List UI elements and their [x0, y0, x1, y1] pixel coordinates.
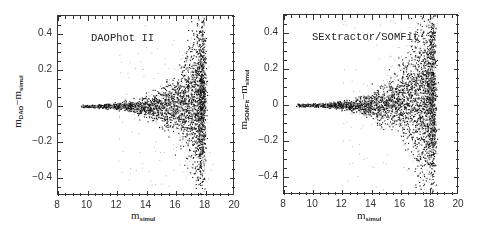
x-tick-label: 8 — [273, 198, 293, 209]
x-tick-label: 14 — [361, 198, 381, 209]
x-axis-label: msimul — [357, 209, 381, 222]
xlabel-base: m — [357, 209, 366, 221]
y-tick-label: 0.2 — [248, 62, 278, 73]
y-tick-label: 0 — [22, 99, 52, 110]
x-tick-label: 18 — [419, 198, 439, 209]
y-tick-label: −0.4 — [22, 171, 52, 182]
y-tick-label: −0.2 — [22, 135, 52, 146]
x-tick-label: 18 — [195, 199, 215, 210]
ylabel-base2: m — [237, 85, 249, 94]
x-tick-label: 16 — [390, 198, 410, 209]
y-tick-label: 0.2 — [22, 63, 52, 74]
x-tick-label: 12 — [331, 198, 351, 209]
x-tick-label: 8 — [47, 199, 67, 210]
x-tick-label: 14 — [136, 199, 156, 210]
y-tick-label: 0.4 — [248, 26, 278, 37]
xlabel-sub: simul — [366, 216, 382, 222]
x-tick-label: 20 — [448, 198, 468, 209]
y-tick-label: −0.4 — [248, 170, 278, 181]
x-tick-label: 16 — [165, 199, 185, 210]
x-tick-label: 10 — [302, 198, 322, 209]
right-panel: mSOMFit−msimul SExtractor/SOMFit msimul — [0, 0, 483, 229]
x-tick-label: 20 — [224, 199, 244, 210]
x-tick-label: 10 — [77, 199, 97, 210]
y-tick-label: 0.4 — [22, 27, 52, 38]
y-tick-label: −0.2 — [248, 134, 278, 145]
ylabel-minus: − — [237, 94, 249, 100]
y-tick-label: 0 — [248, 98, 278, 109]
panel-title: SExtractor/SOMFit — [312, 31, 419, 43]
ylabel-base: m — [237, 121, 249, 130]
x-tick-label: 12 — [106, 199, 126, 210]
